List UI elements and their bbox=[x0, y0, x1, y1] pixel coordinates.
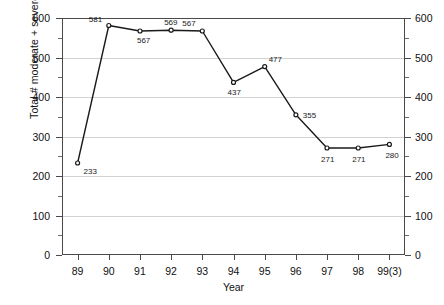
data-point-label: 569 bbox=[164, 18, 177, 27]
y-tick-right bbox=[405, 176, 411, 177]
y-minor-tick-left bbox=[58, 156, 62, 157]
y-minor-tick-right bbox=[405, 117, 409, 118]
x-tick bbox=[296, 255, 297, 260]
gridline bbox=[63, 137, 404, 138]
y-tick-right bbox=[405, 97, 411, 98]
y-minor-tick-left bbox=[58, 38, 62, 39]
x-tick bbox=[265, 255, 266, 260]
y-tick-label-right: 100 bbox=[415, 210, 444, 222]
y-tick-label-left: 600 bbox=[16, 12, 50, 24]
x-tick bbox=[202, 255, 203, 260]
x-tick bbox=[140, 255, 141, 260]
data-point-label: 355 bbox=[303, 111, 316, 120]
chart-container: Total # moderate + severe ADEs 010020030… bbox=[0, 0, 444, 305]
x-tick bbox=[234, 255, 235, 260]
data-point-label: 567 bbox=[137, 36, 150, 45]
data-point-label: 233 bbox=[84, 167, 97, 176]
y-tick-label-right: 300 bbox=[415, 131, 444, 143]
y-tick-left bbox=[56, 137, 62, 138]
y-tick-right bbox=[405, 216, 411, 217]
x-tick-label: 94 bbox=[228, 265, 240, 277]
y-tick-right bbox=[405, 58, 411, 59]
data-point-label: 581 bbox=[89, 15, 102, 24]
data-point-label: 567 bbox=[182, 19, 195, 28]
x-tick-label: 97 bbox=[321, 265, 333, 277]
y-tick-label-left: 0 bbox=[16, 249, 50, 261]
x-tick bbox=[389, 255, 390, 260]
x-tick-label: 98 bbox=[352, 265, 364, 277]
y-tick-left bbox=[56, 97, 62, 98]
y-tick-label-left: 400 bbox=[16, 91, 50, 103]
y-minor-tick-left bbox=[58, 117, 62, 118]
plot-area bbox=[62, 18, 405, 255]
y-tick-label-right: 500 bbox=[415, 52, 444, 64]
y-tick-right bbox=[405, 18, 411, 19]
x-tick bbox=[109, 255, 110, 260]
x-tick bbox=[327, 255, 328, 260]
y-tick-label-right: 400 bbox=[415, 91, 444, 103]
x-tick bbox=[78, 255, 79, 260]
y-tick-left bbox=[56, 176, 62, 177]
y-tick-label-right: 0 bbox=[415, 249, 444, 261]
gridline bbox=[63, 176, 404, 177]
y-minor-tick-right bbox=[405, 156, 409, 157]
x-axis-title: Year bbox=[62, 281, 405, 293]
x-tick-label: 90 bbox=[103, 265, 115, 277]
y-tick-left bbox=[56, 18, 62, 19]
y-tick-label-right: 600 bbox=[415, 12, 444, 24]
gridline bbox=[63, 216, 404, 217]
y-tick-right bbox=[405, 255, 411, 256]
x-tick-label: 95 bbox=[259, 265, 271, 277]
y-minor-tick-right bbox=[405, 235, 409, 236]
y-tick-label-left: 300 bbox=[16, 131, 50, 143]
gridline bbox=[63, 58, 404, 59]
y-tick-label-left: 200 bbox=[16, 170, 50, 182]
y-tick-left bbox=[56, 255, 62, 256]
y-tick-left bbox=[56, 58, 62, 59]
x-tick bbox=[171, 255, 172, 260]
data-point-label: 271 bbox=[352, 155, 365, 164]
x-tick-label: 93 bbox=[196, 265, 208, 277]
y-tick-label-left: 100 bbox=[16, 210, 50, 222]
x-tick bbox=[358, 255, 359, 260]
x-tick-label: 89 bbox=[72, 265, 84, 277]
data-point-label: 271 bbox=[321, 155, 334, 164]
y-minor-tick-right bbox=[405, 196, 409, 197]
y-minor-tick-left bbox=[58, 77, 62, 78]
x-tick-label: 92 bbox=[165, 265, 177, 277]
data-point-label: 437 bbox=[228, 88, 241, 97]
data-point-label: 280 bbox=[385, 151, 398, 160]
y-minor-tick-left bbox=[58, 196, 62, 197]
y-minor-tick-right bbox=[405, 38, 409, 39]
y-minor-tick-right bbox=[405, 77, 409, 78]
y-minor-tick-left bbox=[58, 235, 62, 236]
y-tick-label-left: 500 bbox=[16, 52, 50, 64]
y-tick-right bbox=[405, 137, 411, 138]
x-tick-label: 91 bbox=[134, 265, 146, 277]
x-tick-label: 96 bbox=[290, 265, 302, 277]
y-tick-label-right: 200 bbox=[415, 170, 444, 182]
y-tick-left bbox=[56, 216, 62, 217]
x-tick-label: 99(3) bbox=[377, 265, 402, 277]
data-point-label: 477 bbox=[269, 55, 282, 64]
